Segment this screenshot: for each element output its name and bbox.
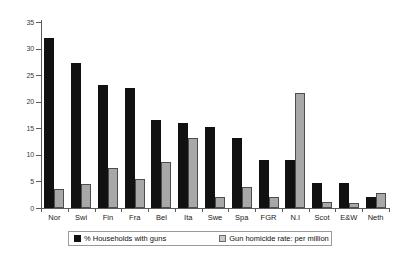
x-axis-label-fgr: FGR (255, 213, 282, 222)
x-axis-tick (335, 208, 336, 212)
bar-bel-series0 (151, 120, 161, 208)
x-axis-label-swe: Swe (202, 213, 229, 222)
bar-fgr-series1 (269, 197, 279, 208)
bar-group (335, 22, 362, 208)
bar-fgr-series0 (259, 160, 269, 208)
x-axis-tick (175, 208, 176, 212)
y-axis-tick-label: 0 (12, 205, 34, 212)
bar-swe-series1 (215, 197, 225, 208)
x-axis-tick (41, 208, 42, 212)
x-axis-label-fra: Fra (121, 213, 148, 222)
bar-swi-series1 (81, 184, 91, 208)
bar-group (95, 22, 122, 208)
x-axis-label-ew: E&W (335, 213, 362, 222)
grey-square-icon (219, 235, 226, 242)
bar-group (309, 22, 336, 208)
bar-group (362, 22, 389, 208)
x-axis-label-nor: Nor (41, 213, 68, 222)
x-axis-label-neth: Neth (362, 213, 389, 222)
bar-spa-series1 (242, 187, 252, 208)
x-axis-label-ita: Ita (175, 213, 202, 222)
x-axis-tick (228, 208, 229, 212)
chart-legend: % Households with guns Gun homicide rate… (68, 231, 332, 246)
x-axis-tick (148, 208, 149, 212)
bar-ni-series0 (285, 160, 295, 208)
x-axis-tick (95, 208, 96, 212)
x-axis-tick (121, 208, 122, 212)
y-axis-tick-label: 5 (12, 178, 34, 185)
y-axis-tick-label: 15 (12, 125, 34, 132)
bar-swe-series0 (205, 127, 215, 208)
bar-fin-series0 (98, 85, 108, 208)
bar-fra-series1 (135, 179, 145, 208)
bar-neth-series0 (366, 197, 376, 208)
bar-swi-series0 (71, 63, 81, 208)
bar-ni-series1 (295, 93, 305, 208)
bar-group (175, 22, 202, 208)
x-axis-label-spa: Spa (228, 213, 255, 222)
bar-scot-series1 (322, 202, 332, 208)
y-axis-tick-label: 25 (12, 72, 34, 79)
x-axis-label-ni: N.I (282, 213, 309, 222)
x-axis-tick (362, 208, 363, 212)
x-axis-label-bel: Bel (148, 213, 175, 222)
black-square-icon (74, 235, 81, 242)
bar-ita-series1 (188, 138, 198, 208)
x-axis-tick (68, 208, 69, 212)
bar-ew-series1 (349, 203, 359, 208)
bar-ita-series0 (178, 123, 188, 208)
x-axis-line (41, 208, 390, 209)
x-axis-tick (282, 208, 283, 212)
bar-nor-series1 (54, 189, 64, 208)
bar-group (41, 22, 68, 208)
bar-neth-series1 (376, 193, 386, 208)
bar-fin-series1 (108, 168, 118, 208)
bar-group (282, 22, 309, 208)
bar-fra-series0 (125, 88, 135, 208)
x-axis-tick (309, 208, 310, 212)
bar-nor-series0 (44, 38, 54, 208)
x-axis-label-fin: Fin (95, 213, 122, 222)
y-axis-tick-label: 20 (12, 98, 34, 105)
legend-label-households: % Households with guns (84, 235, 166, 243)
bar-scot-series0 (312, 183, 322, 208)
bar-group (121, 22, 148, 208)
bar-group (202, 22, 229, 208)
x-axis-tick (202, 208, 203, 212)
legend-entry-households: % Households with guns (74, 235, 166, 243)
y-axis-tick-label: 30 (12, 45, 34, 52)
bar-group (228, 22, 255, 208)
bar-bel-series1 (161, 162, 171, 208)
bar-chart: 05101520253035 NorSwiFinFraBelItaSweSpaF… (0, 0, 400, 262)
bar-group (68, 22, 95, 208)
y-axis-tick-label: 35 (12, 19, 34, 26)
bar-spa-series0 (232, 138, 242, 208)
bar-group (148, 22, 175, 208)
plot-area (41, 22, 389, 208)
x-axis-label-swi: Swi (68, 213, 95, 222)
x-axis-tick (255, 208, 256, 212)
y-axis-tick-label: 10 (12, 151, 34, 158)
x-axis-label-scot: Scot (309, 213, 336, 222)
x-axis-tick (389, 208, 390, 212)
bar-ew-series0 (339, 183, 349, 208)
legend-label-homicide: Gun homicide rate: per million (229, 235, 329, 243)
bar-group (255, 22, 282, 208)
legend-entry-homicide: Gun homicide rate: per million (219, 235, 329, 243)
